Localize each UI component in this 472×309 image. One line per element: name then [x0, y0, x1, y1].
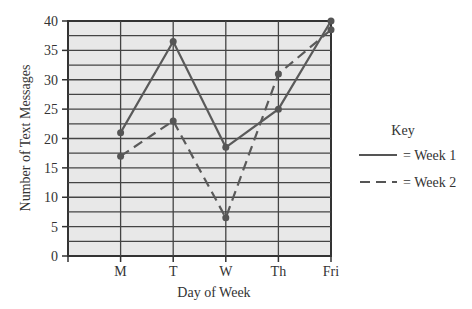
x-tick-label: W: [219, 264, 233, 279]
legend-entry-week-2: = Week 2: [403, 175, 456, 190]
data-point: [275, 106, 282, 113]
data-point: [117, 153, 124, 160]
legend-title: Key: [391, 123, 414, 138]
data-point: [328, 26, 335, 33]
data-point: [222, 214, 229, 221]
y-tick-label: 5: [51, 220, 58, 235]
line-chart: 0510152025303540 MTWThFri Number of Text…: [0, 0, 472, 309]
x-tick-label: Th: [271, 264, 287, 279]
y-tick-label: 0: [51, 249, 58, 264]
data-point: [328, 18, 335, 25]
y-tick-label: 10: [44, 190, 58, 205]
x-axis-ticks: MTWThFri: [68, 256, 339, 279]
data-point: [170, 117, 177, 124]
x-tick-label: T: [169, 264, 178, 279]
y-tick-label: 30: [44, 73, 58, 88]
y-tick-label: 35: [44, 43, 58, 58]
x-tick-label: Fri: [323, 264, 339, 279]
y-tick-label: 20: [44, 132, 58, 147]
data-point: [117, 129, 124, 136]
y-axis-label: Number of Text Messages: [18, 65, 33, 212]
data-point: [222, 144, 229, 151]
x-axis-label: Day of Week: [177, 285, 250, 300]
y-axis-ticks: 0510152025303540: [44, 14, 68, 264]
data-point: [275, 70, 282, 77]
legend-entry-week-1: = Week 1: [403, 148, 456, 163]
y-tick-label: 40: [44, 14, 58, 29]
y-tick-label: 15: [44, 161, 58, 176]
x-tick-label: M: [114, 264, 127, 279]
data-point: [170, 38, 177, 45]
y-tick-label: 25: [44, 102, 58, 117]
